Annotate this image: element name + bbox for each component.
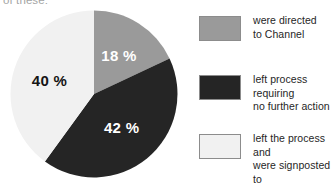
pie-slice-label-directed: 18 % (101, 46, 136, 63)
pie-chart-svg (10, 10, 178, 178)
legend-label-signposted: left the process and were signposted to … (253, 132, 334, 185)
chart-legend: were directed to Channel left process re… (199, 0, 334, 185)
pie-chart: 18 % 42 % 40 % (10, 10, 178, 178)
pie-chart-figure: of these: 18 % 42 % 40 % were directed t… (0, 0, 334, 185)
legend-swatch-signposted (199, 134, 241, 159)
legend-swatch-no-action (199, 75, 241, 100)
pie-slice-label-no-action: 42 % (104, 119, 139, 136)
legend-item-directed: were directed to Channel (199, 14, 317, 41)
figure-caption: of these: (3, 0, 48, 6)
legend-item-signposted: left the process and were signposted to … (199, 132, 334, 185)
legend-swatch-directed (199, 16, 241, 41)
legend-label-directed: were directed to Channel (253, 14, 317, 41)
legend-label-no-action: left process requiring no further action (253, 73, 334, 114)
legend-item-no-action: left process requiring no further action (199, 73, 334, 114)
pie-slice-label-signposted: 40 % (32, 71, 67, 88)
